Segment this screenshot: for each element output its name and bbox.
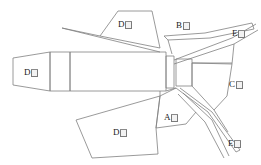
b-strip-connector [168,40,172,54]
label-d-nozzle: D [24,68,38,77]
drawing-strokes [13,11,258,158]
upper-fin-outline [100,11,160,48]
body-front-block [50,52,70,91]
tofu-glyph-icon [183,22,190,30]
body-main-outline [70,52,166,91]
label-a-lower: A [164,113,178,122]
upper-fin-base [100,36,160,48]
lower-fin-top-edge [76,96,160,120]
label-e-lower-right: E [228,139,241,148]
a-panel-outline [156,96,186,128]
label-letter: E [232,29,238,38]
tofu-glyph-icon [120,129,127,137]
c-panel-lower-edge [192,86,214,110]
mid-collar-outline [166,56,174,88]
tofu-glyph-icon [31,69,38,77]
tofu-glyph-icon [236,81,243,89]
label-letter: A [164,113,171,122]
label-d-lower-fin: D [113,128,127,137]
label-letter: D [118,20,125,29]
a-panel-right-edge [186,112,196,124]
e-lower-strip-cap [236,150,240,152]
figure-root: D B E D C A D E [0,0,261,165]
upper-strip-left-cap [164,36,168,40]
label-letter: E [228,139,234,148]
tofu-glyph-icon [234,140,241,148]
label-b-upper-strip: B [176,21,190,30]
label-letter: C [229,80,235,89]
nose-section-outline [176,59,192,86]
label-letter: D [24,68,31,77]
lower-fin-right-edge [156,96,160,128]
label-letter: B [176,21,182,30]
c-panel-upper-edge [232,44,234,64]
upper-fin-lower-leader [62,28,160,52]
label-c-right: C [229,80,243,89]
e-lower-strip-edge-a [176,88,236,152]
label-letter: D [113,128,120,137]
tofu-glyph-icon [171,114,178,122]
a-panel-top-edge [160,88,176,96]
c-panel-outline [192,63,232,110]
label-d-upper-fin: D [118,20,132,29]
label-e-upper-right: E [232,29,245,38]
lower-fin-outline [76,120,158,158]
tofu-glyph-icon [238,30,245,38]
tofu-glyph-icon [125,21,132,29]
